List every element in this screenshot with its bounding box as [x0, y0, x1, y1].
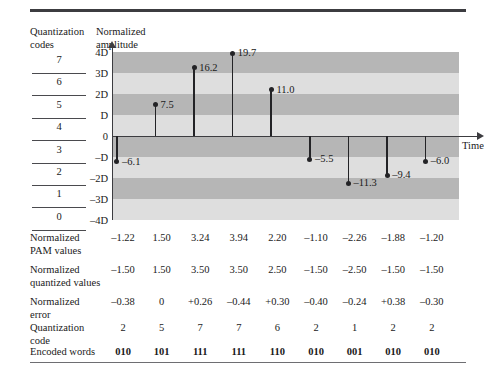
table-cell: –1.50 [409, 264, 455, 277]
quantization-code-6: 6 [30, 74, 88, 96]
sample-value-label: –6.1 [122, 156, 140, 167]
row-label-line: Normalized [30, 232, 106, 245]
sample-point-marker [385, 173, 390, 178]
y-tick-neg3D: –3D [86, 194, 108, 205]
y-tick-negD: –D [86, 152, 108, 163]
sample-point-marker [346, 181, 351, 186]
row-label-line: Encoded words [30, 346, 106, 359]
quantization-code-7: 7 [30, 52, 88, 74]
sample-value-label: 11.0 [276, 84, 294, 95]
y-tick-0: 0 [86, 131, 108, 142]
y-axis-line [112, 46, 113, 220]
sample-value-label: –9.4 [392, 169, 410, 180]
amplitude-band [112, 178, 459, 199]
row-label: NormalizedPAM values [30, 232, 106, 257]
sample-stem [348, 136, 350, 183]
quantization-code-value: 2 [30, 164, 88, 179]
row-label-line: Quantization code [30, 322, 106, 347]
amplitude-band [112, 115, 459, 136]
sample-stem [309, 136, 311, 159]
table-cell: 2 [409, 322, 455, 335]
codes-header-line: codes [30, 39, 94, 52]
sample-value-label: 16.2 [199, 62, 217, 73]
sample-stem [155, 105, 157, 137]
row-label: Normalizedquantized values [30, 264, 106, 289]
row-label-line: Normalized [30, 296, 106, 309]
sample-point-marker [153, 102, 158, 107]
sample-value-label: –6.0 [431, 155, 449, 166]
pcm-quantization-chart: Time 4D3D2DD0–D–2D–3D–4D –6.17.516.219.7… [88, 52, 478, 227]
y-tick-neg4D: –4D [86, 215, 108, 226]
y-tick-2D: 2D [86, 89, 108, 100]
quantization-codes-header: Quantizationcodes [30, 26, 94, 51]
row-label: Normalizederror [30, 296, 106, 321]
quantization-code-5: 5 [30, 97, 88, 119]
y-tick-neg2D: –2D [86, 173, 108, 184]
quantization-code-value: 1 [30, 186, 88, 201]
quantization-code-value: 0 [30, 209, 88, 224]
quantization-code-4: 4 [30, 119, 88, 141]
table-cell: –1.20 [409, 232, 455, 245]
sample-value-label: –11.3 [354, 177, 377, 188]
row-label-line: error [30, 309, 106, 322]
sample-stem [270, 90, 272, 136]
y-axis-arrow-icon [108, 41, 116, 48]
quantization-code-3: 3 [30, 142, 88, 164]
row-label-line: Normalized [30, 264, 106, 277]
amplitude-band [112, 136, 459, 157]
sample-value-label: 7.5 [161, 99, 174, 110]
sample-point-marker [423, 159, 428, 164]
quantization-code-value: 5 [30, 97, 88, 112]
codes-header-line: Quantization [30, 26, 94, 39]
sample-stem [193, 68, 195, 136]
y-tick-3D: 3D [86, 68, 108, 79]
table-cell: –0.30 [409, 296, 455, 309]
sample-point-marker [307, 157, 312, 162]
row-label-line: quantized values [30, 277, 106, 290]
amplitude-band [112, 199, 459, 220]
quantization-code-ladder: 76543210 [30, 52, 88, 232]
amp-header-line: Normalized [96, 26, 170, 39]
amplitude-band [112, 52, 459, 73]
x-axis-arrow-icon [477, 132, 484, 140]
row-label: Encoded words [30, 346, 106, 359]
quantization-code-0: 0 [30, 209, 88, 231]
table-cell: 010 [409, 346, 455, 359]
time-axis-label: Time [462, 140, 484, 151]
quantization-code-value: 6 [30, 74, 88, 89]
quantization-code-1: 1 [30, 186, 88, 208]
quantization-code-2: 2 [30, 164, 88, 186]
quantization-code-value: 3 [30, 142, 88, 157]
y-tick-4D: 4D [86, 47, 108, 58]
sample-value-label: –5.5 [315, 153, 333, 164]
code-divider [32, 230, 86, 231]
row-label: Quantization code [30, 322, 106, 347]
row-label-line: PAM values [30, 245, 106, 258]
sample-point-marker [230, 51, 235, 56]
sample-stem [116, 136, 118, 162]
sample-value-label: 19.7 [238, 47, 256, 58]
x-axis-line [112, 136, 478, 137]
sample-stem [425, 136, 427, 161]
quantization-code-value: 4 [30, 119, 88, 134]
sample-stem [232, 53, 234, 136]
quantization-code-value: 7 [30, 52, 88, 67]
top-rule [30, 9, 466, 12]
sample-stem [386, 136, 388, 175]
bottom-rule [30, 362, 466, 363]
y-tick-D: D [86, 110, 108, 121]
